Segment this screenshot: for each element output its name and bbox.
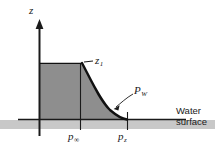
leader-line-z1 [84,61,93,62]
x-tick-label-p-z: pz [118,131,127,143]
annotation-pw-base: P [134,84,141,96]
x-tick-label-p-infinity-base: p [68,130,74,142]
shaded-region-decay [82,63,127,119]
water-vapor-pressure-profile-figure: z z1 PW p∞ pz Water surface [0,0,215,152]
annotation-z1-subscript: 1 [99,60,103,67]
water-surface-label: Water surface [176,105,207,127]
diagram-canvas [0,0,215,152]
annotation-z1: z1 [95,55,103,67]
x-tick-label-p-infinity: p∞ [68,131,79,144]
x-tick-label-p-z-subscript: z [124,136,127,143]
water-surface-label-line1: Water [176,105,207,116]
axis-label-z-text: z [29,4,33,16]
z-axis-arrowhead-icon [36,19,44,29]
x-tick-label-p-z-base: p [118,130,124,142]
axis-label-z: z [29,5,33,16]
annotation-pw: PW [134,85,147,97]
x-tick-label-p-infinity-subscript: ∞ [74,136,80,144]
annotation-pw-subscript: W [141,90,147,97]
water-surface-label-line2: surface [176,116,207,127]
leader-line-pw [116,94,133,107]
shaded-region-constant [40,63,82,119]
